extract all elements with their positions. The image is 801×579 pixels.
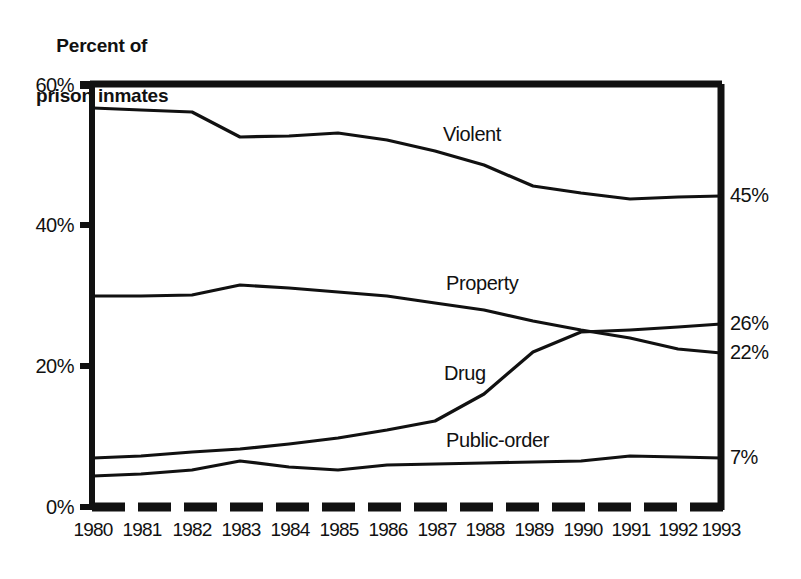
series-label-drug: Drug — [442, 362, 488, 385]
y-tick-label-0: 0% — [18, 496, 74, 519]
y-tick-label-20: 20% — [6, 355, 74, 378]
x-tick-label-1993: 1993 — [688, 519, 754, 541]
end-label-drug: 26% — [730, 312, 769, 335]
y-tick-label-40: 40% — [6, 214, 74, 237]
series-line-public-order — [93, 456, 721, 476]
end-label-public-order: 7% — [730, 446, 758, 469]
series-line-property — [93, 285, 721, 353]
series-label-public-order: Public-order — [444, 429, 551, 452]
end-label-property: 22% — [730, 341, 769, 364]
series-line-violent — [93, 108, 721, 199]
chart-container: Percent of prison inmates 0% 20% 40% 60% — [0, 0, 801, 579]
series-label-property: Property — [444, 272, 520, 295]
series-line-drug — [93, 324, 721, 458]
y-tick-label-60: 60% — [6, 74, 74, 97]
series-label-violent: Violent — [441, 123, 503, 146]
end-label-violent: 45% — [730, 184, 769, 207]
plot-area — [0, 0, 801, 579]
